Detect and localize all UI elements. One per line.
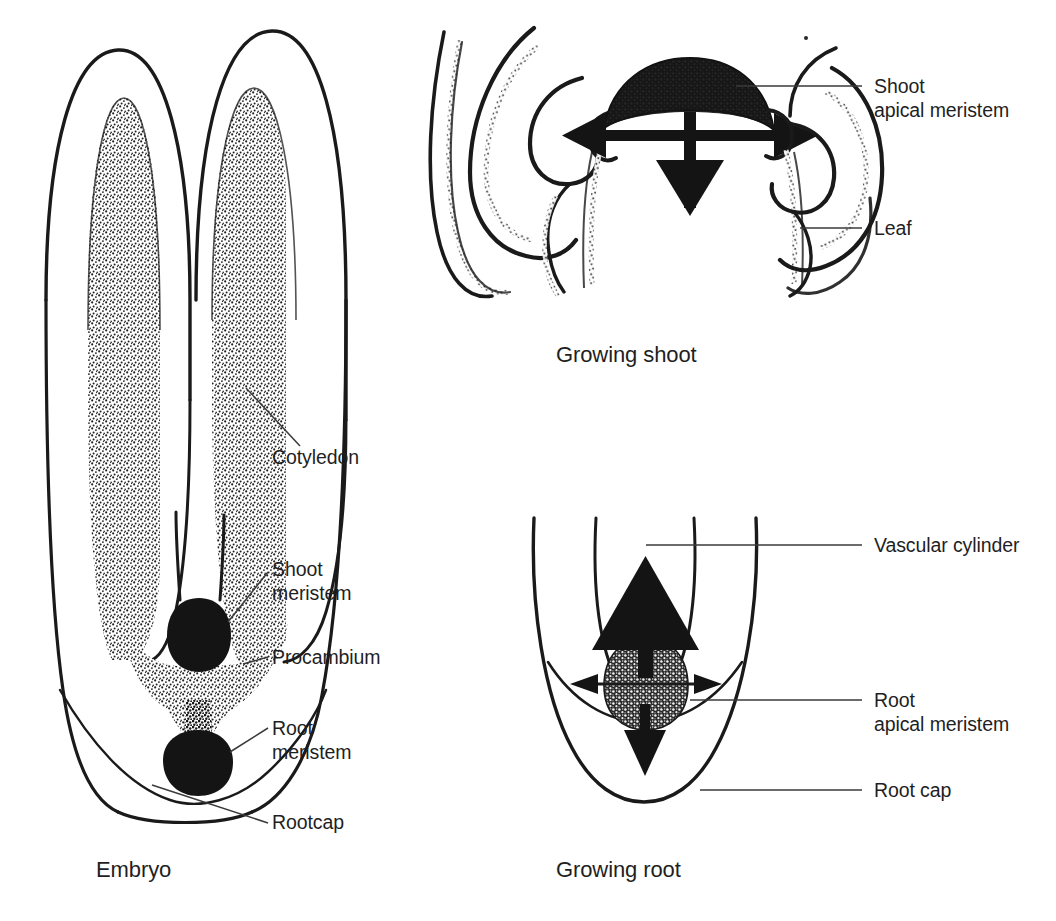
growing-root-figure <box>533 518 756 802</box>
diagram-page: Cotyledon Shoot meristem Procambium Root… <box>0 0 1056 921</box>
label-vascular-cylinder: Vascular cylinder <box>874 533 1019 557</box>
growing-shoot-figure <box>430 28 882 296</box>
leader-shoot-meristem <box>228 572 268 622</box>
label-leaf: Leaf <box>874 216 912 240</box>
label-shoot-meristem-line1: Shoot <box>272 557 322 581</box>
growth-arrow-root-down <box>624 704 666 776</box>
growth-arrow-root-lateral <box>570 674 722 694</box>
label-procambium: Procambium <box>272 645 380 669</box>
label-cotyledon: Cotyledon <box>272 445 359 469</box>
label-root-meristem-line1: Root <box>272 716 313 740</box>
leader-rootcap <box>152 785 268 823</box>
label-rootcap: Rootcap <box>272 810 344 834</box>
label-root-apical-meristem-line1: Root <box>874 688 915 712</box>
leader-cotyledon <box>246 388 300 446</box>
caption-growing-shoot: Growing shoot <box>556 342 697 368</box>
growth-arrow-shoot <box>562 112 818 216</box>
label-root-meristem-line2: meristem <box>272 740 351 764</box>
label-root-apical-meristem-line2: apical meristem <box>874 712 1009 736</box>
leader-procambium <box>243 657 268 664</box>
growing-root-leaders <box>646 545 862 790</box>
label-shoot-apical-meristem-line2: apical meristem <box>874 98 1009 122</box>
label-shoot-apical-meristem-line1: Shoot <box>874 74 924 98</box>
caption-growing-root: Growing root <box>556 857 681 883</box>
leader-root-meristem <box>230 728 268 752</box>
label-shoot-meristem-line2: meristem <box>272 581 351 605</box>
growing-shoot-leaders <box>736 86 862 228</box>
caption-embryo: Embryo <box>96 857 171 883</box>
embryo-figure <box>46 31 346 823</box>
growth-arrow-root-up <box>592 556 699 678</box>
label-root-cap: Root cap <box>874 778 951 802</box>
